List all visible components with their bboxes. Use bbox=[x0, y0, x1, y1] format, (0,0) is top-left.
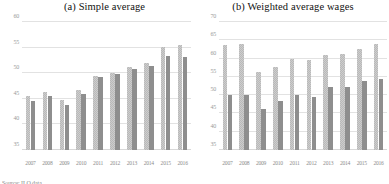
x-axis-tick-label: 2009 bbox=[253, 160, 270, 166]
y-axis-tick-label: 65 bbox=[210, 31, 216, 37]
bar bbox=[374, 44, 379, 150]
bar bbox=[340, 54, 345, 150]
bar bbox=[115, 74, 120, 150]
bar-group bbox=[253, 22, 270, 150]
bar bbox=[362, 81, 367, 150]
bar-group bbox=[73, 22, 90, 150]
bar-group bbox=[370, 22, 387, 150]
bar bbox=[328, 87, 333, 150]
bar bbox=[60, 100, 65, 150]
bar bbox=[223, 45, 228, 150]
figure-grouped-bar-charts: (a) Simple average 354045505560 20072008… bbox=[0, 0, 389, 184]
x-axis-tick-label: 2012 bbox=[107, 160, 124, 166]
bar-group bbox=[56, 22, 73, 150]
bar bbox=[144, 63, 149, 150]
y-axis-tick-label: 60 bbox=[210, 50, 216, 56]
bar bbox=[261, 109, 266, 150]
x-axis-tick-label: 2012 bbox=[303, 160, 320, 166]
x-axis-tick-label: 2011 bbox=[286, 160, 303, 166]
panel-a-plot-area: 354045505560 bbox=[22, 22, 191, 150]
y-axis-tick-label: 45 bbox=[13, 90, 19, 96]
x-axis-tick-label: 2009 bbox=[56, 160, 73, 166]
bar-group bbox=[174, 22, 191, 150]
bar-group bbox=[303, 22, 320, 150]
x-axis-tick-label: 2007 bbox=[219, 160, 236, 166]
bar bbox=[76, 90, 81, 150]
bar bbox=[290, 59, 295, 150]
bar bbox=[161, 47, 166, 150]
x-axis-tick-label: 2015 bbox=[157, 160, 174, 166]
bar bbox=[110, 73, 115, 150]
x-axis-tick-label: 2010 bbox=[269, 160, 286, 166]
bar-group bbox=[269, 22, 286, 150]
bar bbox=[93, 76, 98, 150]
bar bbox=[256, 72, 261, 150]
bar-group bbox=[123, 22, 140, 150]
x-axis-tick-label: 2016 bbox=[370, 160, 387, 166]
bar bbox=[127, 67, 132, 150]
x-axis-tick-label: 2008 bbox=[236, 160, 253, 166]
bar bbox=[178, 45, 183, 150]
bar-group bbox=[353, 22, 370, 150]
bar bbox=[379, 79, 384, 150]
bar bbox=[244, 95, 249, 150]
bar bbox=[345, 87, 350, 150]
bar-group bbox=[219, 22, 236, 150]
x-axis-tick-label: 2015 bbox=[353, 160, 370, 166]
panel-a-bar-groups bbox=[22, 22, 191, 150]
bar bbox=[312, 97, 317, 150]
bar-group bbox=[107, 22, 124, 150]
bar bbox=[132, 69, 137, 150]
bar-group bbox=[320, 22, 337, 150]
y-axis-tick-label: 35 bbox=[210, 141, 216, 147]
y-axis-tick-label: 55 bbox=[13, 39, 19, 45]
bar-group bbox=[22, 22, 39, 150]
panel-b-bar-groups bbox=[219, 22, 387, 150]
source-note: Source: ILO data bbox=[2, 180, 42, 184]
bar-group bbox=[286, 22, 303, 150]
bar bbox=[26, 96, 31, 150]
bar-group bbox=[90, 22, 107, 150]
x-axis-tick-label: 2011 bbox=[90, 160, 107, 166]
y-axis-tick-label: 45 bbox=[210, 104, 216, 110]
panel-b-plot-area: 3540455055606570 bbox=[219, 22, 387, 150]
bar bbox=[228, 95, 233, 150]
panel-b-x-axis-labels: 2007200820092010201120122013201420152016 bbox=[219, 160, 387, 166]
bar bbox=[278, 101, 283, 150]
bar bbox=[65, 105, 70, 150]
bar bbox=[357, 49, 362, 150]
bar bbox=[149, 66, 154, 150]
bar bbox=[183, 57, 188, 150]
y-axis-tick-label: 70 bbox=[210, 13, 216, 19]
bar bbox=[307, 60, 312, 150]
y-axis-tick-label: 40 bbox=[210, 123, 216, 129]
bar bbox=[98, 77, 103, 150]
y-axis-tick-label: 50 bbox=[13, 64, 19, 70]
y-axis-tick-label: 55 bbox=[210, 68, 216, 74]
y-axis-tick-label: 35 bbox=[13, 141, 19, 147]
x-axis-tick-label: 2008 bbox=[39, 160, 56, 166]
bar-group bbox=[39, 22, 56, 150]
bar bbox=[295, 95, 300, 150]
chart-panel-a: (a) Simple average 354045505560 20072008… bbox=[0, 0, 195, 184]
bar bbox=[48, 96, 53, 150]
x-axis-tick-label: 2014 bbox=[337, 160, 354, 166]
x-axis-tick-label: 2016 bbox=[174, 160, 191, 166]
bar-group bbox=[337, 22, 354, 150]
y-axis-tick-label: 40 bbox=[13, 115, 19, 121]
bar bbox=[81, 94, 86, 150]
x-axis-tick-label: 2014 bbox=[140, 160, 157, 166]
panel-b-title: (b) Weighted average wages bbox=[195, 1, 389, 12]
x-axis-tick-label: 2013 bbox=[123, 160, 140, 166]
bar bbox=[273, 67, 278, 150]
x-axis-tick-label: 2007 bbox=[22, 160, 39, 166]
bar bbox=[166, 56, 171, 150]
bar bbox=[43, 92, 48, 150]
y-axis-tick-label: 60 bbox=[13, 13, 19, 19]
bar bbox=[31, 101, 36, 150]
x-axis-tick-label: 2010 bbox=[73, 160, 90, 166]
bar-group bbox=[157, 22, 174, 150]
bar bbox=[323, 55, 328, 150]
x-axis-tick-label: 2013 bbox=[320, 160, 337, 166]
y-axis-tick-label: 50 bbox=[210, 86, 216, 92]
